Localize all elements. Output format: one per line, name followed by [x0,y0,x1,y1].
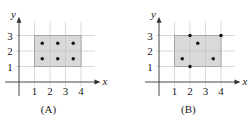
sample-point [212,57,215,60]
y-axis-label: y [10,8,16,20]
panel-a: xy1234123(A) [5,8,107,116]
y-tick-label: 3 [7,30,13,42]
y-tick-label: 2 [147,45,153,57]
panel-caption: (A) [41,103,57,116]
x-tick-label: 2 [187,85,193,97]
figure: xy1234123(A) xy1234123(B) [0,0,249,123]
panel-caption: (B) [181,103,196,116]
y-tick-label: 3 [147,30,153,42]
y-axis-arrow-icon [17,17,22,23]
x-axis-arrow-icon [235,80,241,85]
sample-point [196,42,199,45]
x-tick-label: 3 [63,85,69,97]
sample-point [41,42,44,45]
sample-point [56,57,59,60]
x-axis-label: x [102,75,108,87]
x-tick-label: 2 [47,85,53,97]
x-tick-label: 1 [32,85,38,97]
x-tick-label: 1 [172,85,178,97]
y-axis-arrow-icon [157,17,162,23]
x-tick-label: 3 [203,85,209,97]
sample-point [72,57,75,60]
x-tick-label: 4 [78,85,84,97]
sample-point [41,57,44,60]
sample-point [56,42,59,45]
x-axis-label: x [242,75,248,87]
y-tick-label: 1 [147,61,153,73]
sample-point [188,34,191,37]
sample-point [188,65,191,68]
sample-point [219,34,222,37]
y-tick-label: 2 [7,45,13,57]
x-tick-label: 4 [218,85,224,97]
sample-point [72,42,75,45]
panel-b: xy1234123(B) [145,8,247,116]
x-axis-arrow-icon [95,80,101,85]
y-axis-label: y [150,8,156,20]
y-tick-label: 1 [7,61,13,73]
sample-point [181,57,184,60]
